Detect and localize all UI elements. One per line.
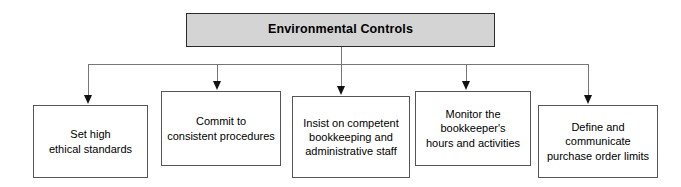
connector-drop-1 (88, 64, 89, 95)
node-label-1: Set high ethical standards (49, 127, 132, 155)
connector-drop-5 (588, 64, 589, 95)
connector-horizontal-bus (88, 64, 588, 65)
node-insist-on-competent-bookkeeping: Insist on competent bookkeeping and admi… (292, 96, 410, 178)
environmental-controls-diagram: Environmental Controls Set high ethical … (0, 0, 681, 187)
connector-drop-4 (466, 64, 467, 81)
node-define-communicate-purchase-order-limits: Define and communicate purchase order li… (538, 105, 658, 178)
node-monitor-bookkeeper-hours: Monitor the bookkeeper's hours and activ… (415, 91, 531, 166)
node-label-4: Monitor the bookkeeper's hours and activ… (426, 107, 520, 149)
arrowhead-4 (462, 81, 470, 90)
arrowhead-1 (84, 95, 92, 104)
node-label-3: Insist on competent bookkeeping and admi… (303, 116, 398, 158)
arrowhead-2 (213, 81, 221, 90)
node-set-high-ethical-standards: Set high ethical standards (33, 105, 148, 178)
root-node-environmental-controls: Environmental Controls (186, 13, 495, 47)
node-label-5: Define and communicate purchase order li… (547, 120, 649, 162)
root-node-label: Environmental Controls (268, 23, 413, 37)
connector-root-stem (341, 47, 342, 64)
node-label-2: Commit to consistent procedures (167, 114, 275, 142)
arrowhead-3 (337, 86, 345, 95)
connector-drop-3 (341, 64, 342, 86)
arrowhead-5 (584, 95, 592, 104)
node-commit-to-consistent-procedures: Commit to consistent procedures (161, 91, 281, 166)
connector-drop-2 (217, 64, 218, 81)
